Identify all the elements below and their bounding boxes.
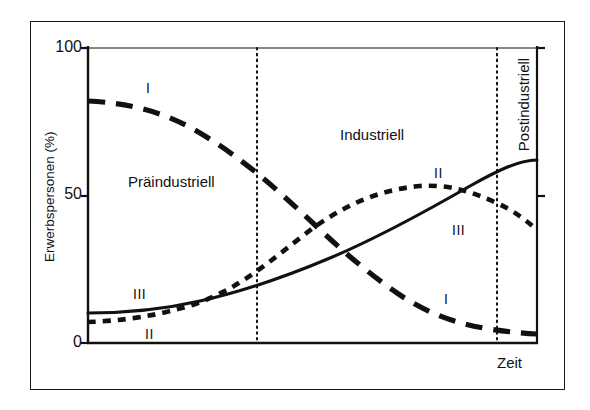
curve-label-III-left: III [133,287,146,301]
era-label-preindustrial: Präindustriell [128,174,215,189]
chart-plot [0,0,590,410]
curve-label-II-peak: II [434,166,443,180]
era-label-industrial: Industriell [340,127,404,142]
curve-I-path [88,101,537,334]
curve-label-I-right: I [444,292,448,306]
curve-label-III-right: III [452,223,465,237]
y-tick-label-0: 0 [44,334,82,350]
x-axis-title: Zeit [497,355,522,370]
curve-label-II-left: II [145,327,154,341]
curve-II-path [88,186,537,322]
curve-label-I-left: I [146,81,150,95]
y-tick-label-100: 100 [44,39,82,55]
figure-container: 100 50 0 Erwerbspersonen (%) Zeit Präind… [0,0,590,410]
era-label-postindustrial: Postindustriell [516,45,531,165]
y-axis-title: Erwerbspersonen (%) [43,117,57,277]
